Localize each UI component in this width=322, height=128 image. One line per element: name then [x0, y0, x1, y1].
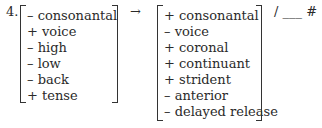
environment-context: / ___ #: [274, 4, 317, 19]
feature-row: + voice: [27, 24, 117, 40]
rewrite-arrow: →: [130, 4, 141, 19]
feature-row: – back: [27, 72, 117, 88]
feature-row: + tense: [27, 88, 117, 104]
input-feature-matrix: – consonantal + voice – high – low – bac…: [20, 5, 118, 103]
feature-row: – low: [27, 56, 117, 72]
left-bracket: [20, 5, 26, 103]
output-feature-matrix: + consonantal – voice + coronal + contin…: [157, 5, 262, 121]
example-number: 4.: [6, 4, 18, 19]
feature-row: – consonantal: [27, 8, 117, 24]
right-bracket: [112, 5, 118, 103]
feature-row: – high: [27, 40, 117, 56]
left-bracket: [157, 5, 163, 121]
right-bracket: [256, 5, 262, 121]
